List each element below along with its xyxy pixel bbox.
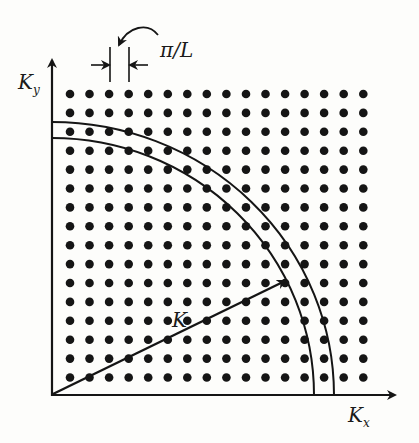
lattice-point <box>300 165 309 174</box>
lattice-point <box>281 260 290 269</box>
lattice-point <box>359 146 368 155</box>
lattice-point <box>164 317 173 326</box>
lattice-point <box>339 373 348 382</box>
lattice-point <box>164 222 173 231</box>
lattice-point <box>144 222 153 231</box>
lattice-point <box>320 260 329 269</box>
lattice-point <box>359 373 368 382</box>
lattice-point <box>105 279 114 288</box>
lattice-point <box>105 146 114 155</box>
x-axis-label-main: K <box>348 403 363 427</box>
lattice-point <box>222 184 231 193</box>
x-axis-label: Kx <box>348 403 370 430</box>
lattice-point <box>124 298 133 307</box>
lattice-point <box>261 222 270 231</box>
lattice-point <box>66 203 75 212</box>
lattice-point <box>203 90 212 99</box>
lattice-point <box>124 222 133 231</box>
lattice-point <box>85 165 94 174</box>
lattice-point <box>261 279 270 288</box>
lattice-point <box>339 260 348 269</box>
lattice-point <box>261 90 270 99</box>
lattice-point <box>144 317 153 326</box>
lattice-point <box>359 260 368 269</box>
lattice-point <box>339 298 348 307</box>
lattice-point <box>105 317 114 326</box>
lattice-point <box>85 109 94 118</box>
lattice-point <box>359 203 368 212</box>
lattice-point <box>85 222 94 231</box>
lattice-point <box>144 335 153 344</box>
lattice-point <box>105 373 114 382</box>
lattice-point <box>359 279 368 288</box>
lattice-point <box>261 298 270 307</box>
lattice-point <box>222 317 231 326</box>
lattice-point <box>124 373 133 382</box>
lattice-point <box>66 222 75 231</box>
k-vector-label: K <box>172 308 187 332</box>
lattice-point <box>261 146 270 155</box>
lattice-point <box>242 279 251 288</box>
lattice-point <box>203 222 212 231</box>
lattice-point <box>164 203 173 212</box>
lattice-point <box>222 109 231 118</box>
lattice-point <box>124 90 133 99</box>
lattice-point <box>105 109 114 118</box>
lattice-point <box>359 335 368 344</box>
lattice-point <box>66 260 75 269</box>
lattice-point <box>105 241 114 250</box>
lattice-point <box>281 354 290 363</box>
lattice-point <box>300 222 309 231</box>
lattice-point <box>66 109 75 118</box>
lattice-point <box>339 279 348 288</box>
lattice-point <box>242 260 251 269</box>
lattice-point <box>183 279 192 288</box>
curved-arrow-icon <box>119 27 158 45</box>
y-axis-label-sub: y <box>33 83 40 97</box>
lattice-point <box>164 90 173 99</box>
lattice-point <box>203 354 212 363</box>
k-space-diagram: π/L Ky Kx K <box>0 0 419 443</box>
lattice-point <box>281 317 290 326</box>
lattice-point <box>183 109 192 118</box>
lattice-point <box>320 203 329 212</box>
lattice-point <box>339 165 348 174</box>
lattice-point <box>85 146 94 155</box>
lattice-point <box>144 241 153 250</box>
lattice-point <box>124 260 133 269</box>
lattice-point <box>339 241 348 250</box>
lattice-point <box>281 109 290 118</box>
lattice-point <box>66 317 75 326</box>
lattice-point <box>300 354 309 363</box>
lattice-point <box>203 241 212 250</box>
lattice-point <box>183 335 192 344</box>
lattice-point <box>124 165 133 174</box>
lattice-point <box>222 90 231 99</box>
lattice-point <box>85 128 94 137</box>
lattice-point <box>339 146 348 155</box>
lattice-point <box>222 222 231 231</box>
lattice-point <box>124 241 133 250</box>
lattice-point <box>261 203 270 212</box>
lattice-point <box>320 354 329 363</box>
lattice-point <box>281 335 290 344</box>
lattice-point <box>85 317 94 326</box>
lattice-point <box>281 298 290 307</box>
lattice-point <box>242 335 251 344</box>
lattice-point <box>85 279 94 288</box>
lattice-point <box>339 90 348 99</box>
lattice-point <box>222 279 231 288</box>
lattice-point <box>124 317 133 326</box>
lattice-point <box>66 146 75 155</box>
lattice-point <box>66 90 75 99</box>
y-axis-label: Ky <box>18 70 40 97</box>
diagram-canvas <box>0 0 419 443</box>
lattice-point <box>242 373 251 382</box>
lattice-point <box>320 165 329 174</box>
lattice-point <box>66 165 75 174</box>
lattice-point <box>144 165 153 174</box>
lattice-point <box>164 241 173 250</box>
lattice-point <box>85 203 94 212</box>
lattice-point <box>144 354 153 363</box>
lattice-point <box>281 373 290 382</box>
